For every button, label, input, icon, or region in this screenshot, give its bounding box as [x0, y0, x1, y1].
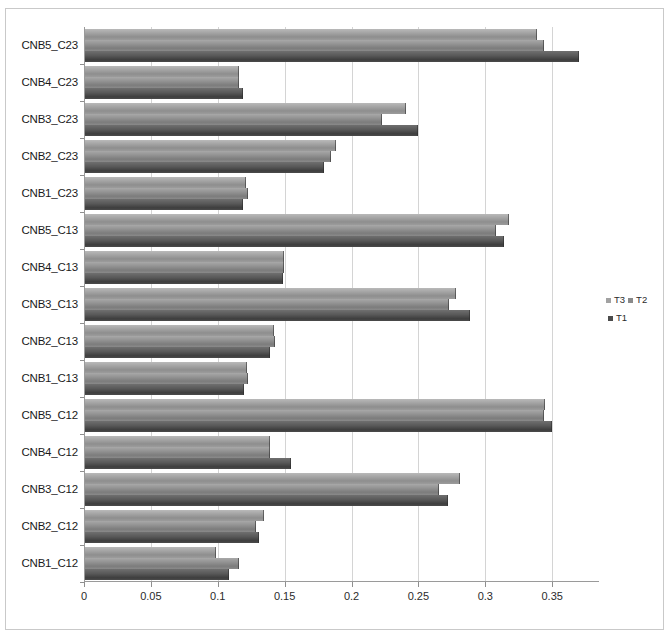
bar-t1-cnb5_c13 — [85, 236, 504, 247]
y-tick-mark — [80, 101, 84, 102]
legend-row-top: T3 T2 — [606, 291, 668, 309]
bar-t1-cnb5_c23 — [85, 51, 579, 62]
bar-t2-cnb3_c23 — [85, 114, 382, 125]
x-tick-mark — [418, 582, 419, 587]
bar-t1-cnb2_c23 — [85, 162, 324, 173]
y-tick-mark — [80, 323, 84, 324]
legend-label-t3: T3 — [614, 291, 625, 309]
y-tick-mark — [80, 545, 84, 546]
plot-area — [84, 27, 599, 582]
category-label-cnb5_c23: CNB5_C23 — [21, 39, 78, 51]
x-tick-label: 0 — [81, 590, 87, 602]
bar-t2-cnb4_c12 — [85, 447, 270, 458]
x-tick-label: 0.1 — [210, 590, 225, 602]
legend-row-bottom: T1 — [608, 309, 668, 327]
bar-t3-cnb1_c23 — [85, 177, 246, 188]
bar-t3-cnb5_c23 — [85, 29, 537, 40]
bar-t3-cnb1_c13 — [85, 362, 247, 373]
y-tick-mark — [80, 64, 84, 65]
y-tick-mark — [80, 360, 84, 361]
bar-t1-cnb4_c13 — [85, 273, 283, 284]
bar-t2-cnb2_c13 — [85, 336, 275, 347]
category-label-cnb3_c12: CNB3_C12 — [21, 483, 78, 495]
bar-t2-cnb3_c13 — [85, 299, 449, 310]
bar-t2-cnb2_c12 — [85, 521, 256, 532]
y-tick-mark — [80, 175, 84, 176]
category-label-cnb2_c23: CNB2_C23 — [21, 150, 78, 162]
y-tick-mark — [80, 212, 84, 213]
x-tick-mark — [485, 582, 486, 587]
bar-t2-cnb5_c12 — [85, 410, 544, 421]
bar-t2-cnb5_c13 — [85, 225, 496, 236]
legend-label-t2: T2 — [636, 291, 647, 309]
bar-t3-cnb1_c12 — [85, 547, 216, 558]
bar-t3-cnb2_c13 — [85, 325, 274, 336]
bar-t1-cnb2_c12 — [85, 532, 259, 543]
bar-t1-cnb3_c12 — [85, 495, 448, 506]
bar-t2-cnb2_c23 — [85, 151, 331, 162]
legend-label-t1: T1 — [616, 309, 627, 327]
bar-t2-cnb4_c13 — [85, 262, 284, 273]
legend-swatch-t3-icon — [606, 298, 611, 303]
x-tick-mark — [218, 582, 219, 587]
bar-t1-cnb4_c23 — [85, 88, 243, 99]
gridline — [485, 27, 486, 582]
x-tick-label: 0.05 — [140, 590, 161, 602]
bar-t3-cnb5_c13 — [85, 214, 509, 225]
bar-t3-cnb3_c13 — [85, 288, 456, 299]
bar-t2-cnb4_c23 — [85, 77, 239, 88]
y-tick-mark — [80, 397, 84, 398]
chart-legend: T3 T2 T1 — [606, 291, 668, 327]
category-label-cnb4_c12: CNB4_C12 — [21, 446, 78, 458]
y-axis-category-labels: CNB5_C23CNB4_C23CNB3_C23CNB2_C23CNB1_C23… — [6, 27, 78, 582]
bar-t1-cnb1_c23 — [85, 199, 243, 210]
bar-t1-cnb3_c23 — [85, 125, 418, 136]
category-label-cnb3_c23: CNB3_C23 — [21, 113, 78, 125]
bar-t1-cnb4_c12 — [85, 458, 291, 469]
y-tick-mark — [80, 249, 84, 250]
bar-t2-cnb3_c12 — [85, 484, 439, 495]
y-tick-mark — [80, 138, 84, 139]
category-label-cnb1_c23: CNB1_C23 — [21, 187, 78, 199]
chart-frame: CNB5_C23CNB4_C23CNB3_C23CNB2_C23CNB1_C23… — [5, 8, 664, 630]
x-axis-line — [84, 581, 599, 582]
x-tick-mark — [285, 582, 286, 587]
bar-t3-cnb3_c23 — [85, 103, 406, 114]
bar-t3-cnb3_c12 — [85, 473, 460, 484]
x-tick-mark — [552, 582, 553, 587]
category-label-cnb5_c13: CNB5_C13 — [21, 224, 78, 236]
y-axis-line — [84, 27, 85, 582]
category-label-cnb3_c13: CNB3_C13 — [21, 298, 78, 310]
x-tick-label: 0.25 — [408, 590, 429, 602]
bar-t3-cnb4_c23 — [85, 66, 239, 77]
category-label-cnb2_c13: CNB2_C13 — [21, 335, 78, 347]
screenshot-root: CNB5_C23CNB4_C23CNB3_C23CNB2_C23CNB1_C23… — [0, 0, 672, 640]
bar-t3-cnb5_c12 — [85, 399, 545, 410]
bar-t2-cnb5_c23 — [85, 40, 544, 51]
bar-t3-cnb2_c23 — [85, 140, 336, 151]
legend-swatch-t1-icon — [608, 316, 613, 321]
x-tick-mark — [84, 582, 85, 587]
y-tick-mark — [80, 582, 84, 583]
legend-swatch-t2-icon — [628, 298, 633, 303]
bar-t1-cnb3_c13 — [85, 310, 470, 321]
category-label-cnb1_c12: CNB1_C12 — [21, 557, 78, 569]
bar-t3-cnb2_c12 — [85, 510, 264, 521]
category-label-cnb1_c13: CNB1_C13 — [21, 372, 78, 384]
bar-t2-cnb1_c12 — [85, 558, 239, 569]
bar-t1-cnb1_c13 — [85, 384, 244, 395]
bar-t2-cnb1_c23 — [85, 188, 248, 199]
y-tick-mark — [80, 508, 84, 509]
x-tick-mark — [151, 582, 152, 587]
category-label-cnb5_c12: CNB5_C12 — [21, 409, 78, 421]
bar-t1-cnb5_c12 — [85, 421, 552, 432]
x-tick-label: 0.2 — [344, 590, 359, 602]
y-tick-mark — [80, 471, 84, 472]
category-label-cnb4_c13: CNB4_C13 — [21, 261, 78, 273]
bar-t1-cnb2_c13 — [85, 347, 270, 358]
bar-t1-cnb1_c12 — [85, 569, 229, 580]
bar-t2-cnb1_c13 — [85, 373, 248, 384]
x-tick-label: 0.15 — [274, 590, 295, 602]
y-tick-mark — [80, 286, 84, 287]
category-label-cnb4_c23: CNB4_C23 — [21, 76, 78, 88]
